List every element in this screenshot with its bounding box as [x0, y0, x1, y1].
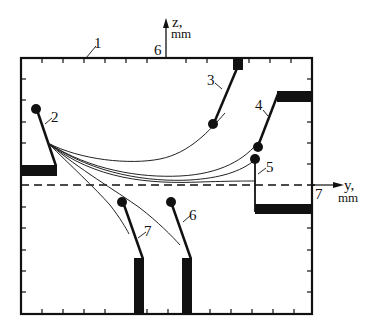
diagram-figure: z, mm 6 y, mm 7 1 2 3 4 5 7 — [0, 0, 379, 333]
block-bottom-left — [134, 258, 144, 314]
z-axis — [163, 18, 169, 58]
label-1: 1 — [94, 35, 102, 51]
y-axis-arrow — [333, 182, 344, 188]
block-right — [255, 204, 312, 214]
block-left — [21, 165, 57, 176]
label-5: 5 — [266, 159, 274, 175]
block-upper-right — [277, 91, 312, 102]
label-4: 4 — [255, 97, 263, 113]
label-3: 3 — [207, 72, 215, 88]
y-axis-unit: mm — [338, 190, 358, 205]
ball-2 — [31, 104, 41, 114]
ball-6 — [166, 197, 176, 207]
label-2: 2 — [51, 109, 59, 125]
ball-7 — [117, 197, 127, 207]
rod-3 — [214, 66, 238, 123]
ball-4 — [253, 142, 263, 152]
z-axis-unit: mm — [171, 26, 191, 41]
trajectories — [48, 113, 260, 245]
rod-6 — [171, 202, 191, 259]
rod-7 — [123, 202, 143, 259]
z-axis-marker: 6 — [154, 42, 162, 58]
label-6: 6 — [189, 207, 197, 223]
block-bottom-right — [182, 258, 192, 314]
y-axis-marker: 7 — [315, 186, 323, 202]
ball-3 — [208, 119, 218, 129]
frame-box — [21, 58, 312, 314]
label-7: 7 — [144, 223, 152, 239]
